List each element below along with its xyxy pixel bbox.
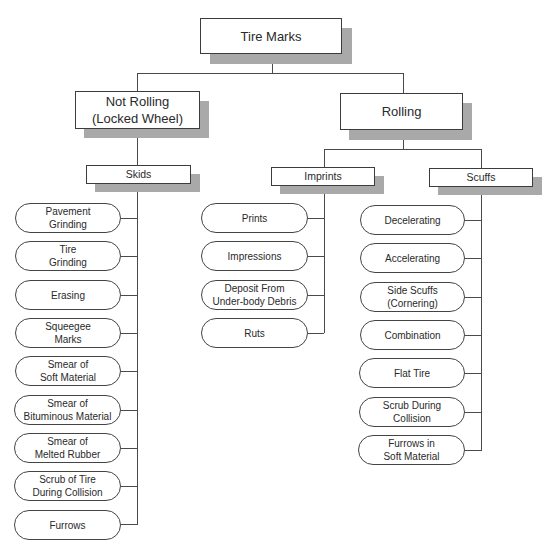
connector-to-not-rolling bbox=[137, 73, 138, 91]
node-scuffs-label: Scuffs bbox=[467, 170, 496, 185]
list-item-smear-soft-material: Smear of Soft Material bbox=[15, 356, 121, 386]
node-not-rolling: Not Rolling (Locked Wheel) bbox=[75, 91, 200, 129]
list-item-smear-bituminous-material: Smear of Bituminous Material bbox=[14, 395, 121, 425]
connector-item bbox=[121, 218, 137, 219]
connector-item bbox=[121, 256, 137, 257]
list-item-pavement-grinding: Pavement Grinding bbox=[15, 203, 121, 233]
node-rolling: Rolling bbox=[340, 93, 463, 130]
connector-item bbox=[308, 256, 324, 257]
connector-item bbox=[121, 333, 137, 334]
connector-to-rolling bbox=[403, 73, 404, 93]
connector-item bbox=[121, 486, 137, 487]
connector-root-horizontal bbox=[137, 73, 404, 74]
list-item-furrows-soft-material: Furrows in Soft Material bbox=[358, 435, 465, 465]
list-item-scrub-tire-collision: Scrub of Tire During Collision bbox=[14, 471, 121, 501]
node-not-rolling-label: Not Rolling (Locked Wheel) bbox=[92, 93, 183, 127]
node-imprints: Imprints bbox=[271, 167, 375, 186]
connector-item bbox=[308, 295, 324, 296]
connector-item bbox=[465, 373, 481, 374]
connector-item bbox=[465, 450, 481, 451]
list-item-furrows: Furrows bbox=[14, 510, 121, 540]
connector-item bbox=[465, 412, 481, 413]
connector-item bbox=[308, 218, 324, 219]
list-item-squeegee-marks: Squeegee Marks bbox=[15, 318, 121, 348]
list-item-prints: Prints bbox=[201, 203, 308, 233]
list-item-tire-grinding: Tire Grinding bbox=[15, 241, 121, 271]
connector-skids-spine bbox=[137, 184, 138, 525]
connector-item bbox=[465, 220, 481, 221]
root-node-tire-marks: Tire Marks bbox=[200, 18, 342, 54]
node-skids-label: Skids bbox=[126, 167, 152, 182]
connector-item bbox=[121, 524, 137, 525]
connector-item bbox=[121, 410, 137, 411]
list-item-ruts: Ruts bbox=[201, 318, 308, 348]
node-rolling-label: Rolling bbox=[382, 103, 422, 120]
list-item-impressions: Impressions bbox=[201, 241, 308, 271]
list-item-erasing: Erasing bbox=[15, 280, 121, 310]
connector-rolling-horizontal bbox=[324, 149, 481, 150]
root-node-label: Tire Marks bbox=[241, 28, 302, 45]
list-item-side-scuffs: Side Scuffs (Cornering) bbox=[360, 282, 465, 312]
list-item-flat-tire: Flat Tire bbox=[359, 358, 465, 388]
connector-to-imprints bbox=[324, 149, 325, 167]
node-imprints-label: Imprints bbox=[304, 169, 341, 184]
list-item-smear-melted-rubber: Smear of Melted Rubber bbox=[14, 433, 121, 463]
connector-item bbox=[465, 297, 481, 298]
connector-imprints-spine bbox=[324, 186, 325, 333]
connector-item bbox=[121, 295, 137, 296]
connector-item bbox=[465, 335, 481, 336]
connector-item bbox=[121, 448, 137, 449]
node-skids: Skids bbox=[86, 165, 191, 184]
connector-scuffs-spine bbox=[481, 187, 482, 451]
list-item-deposit-underbody-debris: Deposit From Under-body Debris bbox=[201, 280, 308, 310]
list-item-scrub-during-collision: Scrub During Collision bbox=[359, 397, 465, 427]
connector-item bbox=[121, 371, 137, 372]
connector-to-scuffs bbox=[481, 149, 482, 168]
list-item-decelerating: Decelerating bbox=[360, 205, 465, 235]
list-item-combination: Combination bbox=[360, 320, 465, 350]
list-item-accelerating: Accelerating bbox=[360, 243, 465, 273]
connector-item bbox=[308, 333, 324, 334]
connector-item bbox=[465, 258, 481, 259]
node-scuffs: Scuffs bbox=[429, 168, 533, 187]
